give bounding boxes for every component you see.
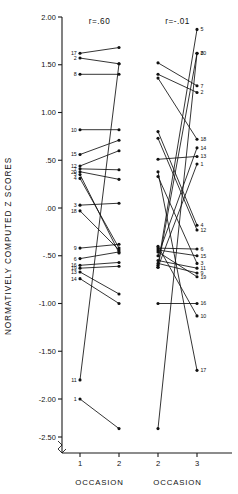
case-label: 15 xyxy=(71,151,77,157)
case-label: 7 xyxy=(201,83,204,89)
case-label: 2 xyxy=(74,55,77,61)
data-point xyxy=(195,163,198,166)
data-point xyxy=(156,158,159,161)
data-point xyxy=(117,427,120,430)
series-segment xyxy=(158,176,197,263)
data-point xyxy=(78,167,81,170)
data-point xyxy=(195,91,198,94)
case-label: 18 xyxy=(71,208,77,214)
x-axis-title: OCCASION xyxy=(75,478,123,487)
series-segment xyxy=(80,399,119,429)
data-point xyxy=(117,265,120,268)
case-label: 6 xyxy=(201,246,204,252)
data-point xyxy=(117,149,120,152)
y-tick-label: -.50 xyxy=(43,251,56,260)
data-point xyxy=(78,247,81,250)
case-label: 12 xyxy=(201,227,207,233)
data-point xyxy=(156,254,159,257)
series-segment xyxy=(80,266,119,268)
correlation-annotation: r=.60 xyxy=(89,17,110,26)
data-point xyxy=(117,128,120,131)
data-point xyxy=(78,397,81,400)
data-point xyxy=(156,266,159,269)
data-point xyxy=(195,254,198,257)
data-point xyxy=(117,261,120,264)
data-point xyxy=(78,204,81,207)
panel-right: 5872181413141261531191916101720 xyxy=(156,26,206,430)
series-segment xyxy=(80,211,119,250)
y-tick-label: .00 xyxy=(45,204,56,213)
y-tick-label: 1.50 xyxy=(41,60,56,69)
series-segment xyxy=(80,151,119,166)
case-label: 10 xyxy=(71,127,77,133)
data-point xyxy=(195,262,198,265)
case-label: 1 xyxy=(201,161,204,167)
x-axis-labels: OCCASIONOCCASION xyxy=(75,478,201,487)
data-point xyxy=(195,228,198,231)
data-point xyxy=(78,164,81,167)
data-point xyxy=(117,168,120,171)
data-point xyxy=(195,248,198,251)
data-point xyxy=(195,138,198,141)
data-point xyxy=(117,178,120,181)
case-label: 14 xyxy=(201,145,207,151)
case-label: 5 xyxy=(201,26,204,32)
data-point xyxy=(156,245,159,248)
data-point xyxy=(78,264,81,267)
series-segment xyxy=(80,203,119,205)
case-label: 4 xyxy=(74,175,77,181)
data-point xyxy=(117,243,120,246)
y-axis-title-text: NORMATIVELY COMPUTED Z SCORES xyxy=(4,157,13,335)
data-point xyxy=(78,173,81,176)
case-label: 18 xyxy=(201,136,207,142)
case-label: 16 xyxy=(201,300,207,306)
series-segment xyxy=(80,252,119,259)
scatter-line-chart: NORMATIVELY COMPUTED Z SCORES 2.001.501.… xyxy=(0,0,238,494)
data-point xyxy=(117,46,120,49)
data-point xyxy=(78,209,81,212)
data-point xyxy=(78,257,81,260)
data-point xyxy=(78,73,81,76)
data-point xyxy=(117,62,120,65)
series-segment xyxy=(158,246,197,316)
x-axis: 1223 xyxy=(62,453,232,468)
data-point xyxy=(156,137,159,140)
data-point xyxy=(156,302,159,305)
data-point xyxy=(195,267,198,270)
series-segment xyxy=(80,178,119,248)
case-label: 19 xyxy=(201,274,207,280)
x-tick-label: 3 xyxy=(195,459,199,468)
series-segment xyxy=(80,140,119,154)
series-segment xyxy=(80,244,119,248)
panels: 1728101512720543189616191314111587218141… xyxy=(71,26,206,430)
data-point xyxy=(156,262,159,265)
case-label: 13 xyxy=(201,153,207,159)
series-segment xyxy=(158,29,197,265)
case-label: 2 xyxy=(201,89,204,95)
case-label: 17 xyxy=(201,367,207,373)
data-point xyxy=(195,155,198,158)
data-point xyxy=(195,369,198,372)
case-label: 11 xyxy=(71,377,76,383)
y-tick-label: 2.00 xyxy=(41,13,56,22)
data-point xyxy=(195,28,198,31)
data-point xyxy=(117,302,120,305)
y-axis: 2.001.501.00.50.00-.50-1.00-1.50-2.00-2.… xyxy=(39,13,66,453)
figure-container: NORMATIVELY COMPUTED Z SCORES 2.001.501.… xyxy=(0,0,238,494)
data-point xyxy=(195,52,198,55)
data-point xyxy=(195,302,198,305)
y-tick-label: 1.00 xyxy=(41,108,56,117)
data-point xyxy=(78,170,81,173)
y-tick-label: -2.00 xyxy=(39,395,56,404)
y-axis-title: NORMATIVELY COMPUTED Z SCORES xyxy=(4,157,13,335)
x-tick-label: 1 xyxy=(78,459,82,468)
data-point xyxy=(117,250,120,253)
y-tick-label: -1.00 xyxy=(39,299,56,308)
panel-left: 1728101512720543189616191314111 xyxy=(71,46,121,430)
panel-annotations: r=.60r=-.01 xyxy=(89,17,190,26)
data-point xyxy=(78,177,81,180)
case-label: 14 xyxy=(71,276,77,282)
data-point xyxy=(78,52,81,55)
data-point xyxy=(78,267,81,270)
x-axis-title: OCCASION xyxy=(153,478,201,487)
